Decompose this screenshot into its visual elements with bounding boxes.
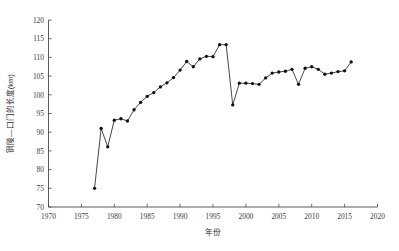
data-point bbox=[152, 91, 155, 94]
data-point bbox=[336, 70, 339, 73]
data-point bbox=[323, 73, 326, 76]
data-point bbox=[238, 82, 241, 85]
data-point bbox=[165, 81, 168, 84]
y-tick-label: 100 bbox=[33, 91, 44, 100]
data-point bbox=[343, 69, 346, 72]
x-tick-label: 2015 bbox=[337, 212, 352, 221]
y-tick-label: 80 bbox=[37, 165, 45, 174]
x-axis-title: 年份 bbox=[205, 227, 221, 237]
data-point bbox=[205, 55, 208, 58]
data-point bbox=[330, 71, 333, 74]
data-point bbox=[172, 76, 175, 79]
x-tick-label: 2005 bbox=[271, 212, 286, 221]
x-tick-label: 1990 bbox=[173, 212, 188, 221]
axis-tickmarks bbox=[49, 20, 378, 207]
data-point bbox=[159, 85, 162, 88]
x-axis-tick-labels: 1970197519801985199019952000200520102015… bbox=[41, 212, 385, 221]
y-axis-title: 铜陵—口门的长度(km) bbox=[5, 74, 15, 153]
x-tick-label: 1995 bbox=[206, 212, 221, 221]
data-point bbox=[218, 43, 221, 46]
data-point bbox=[244, 82, 247, 85]
y-tick-label: 115 bbox=[33, 34, 44, 43]
data-point bbox=[211, 55, 214, 58]
y-tick-label: 110 bbox=[33, 53, 44, 62]
data-point bbox=[139, 101, 142, 104]
x-tick-label: 2020 bbox=[370, 212, 385, 221]
data-point bbox=[113, 119, 116, 122]
y-tick-label: 75 bbox=[37, 184, 45, 193]
axis-frame bbox=[49, 20, 378, 207]
x-tick-label: 2010 bbox=[304, 212, 319, 221]
data-point bbox=[290, 68, 293, 71]
data-point bbox=[277, 70, 280, 73]
data-point bbox=[198, 57, 201, 60]
data-point bbox=[132, 108, 135, 111]
y-tick-label: 70 bbox=[37, 203, 45, 212]
line-chart: 707580859095100105110115120 197019751980… bbox=[0, 0, 399, 251]
data-point bbox=[257, 83, 260, 86]
data-point bbox=[231, 103, 234, 106]
data-point bbox=[284, 70, 287, 73]
data-point bbox=[251, 82, 254, 85]
data-point bbox=[271, 71, 274, 74]
x-tick-label: 1985 bbox=[140, 212, 155, 221]
data-point-markers bbox=[93, 43, 353, 190]
y-tick-label: 90 bbox=[37, 128, 45, 137]
x-tick-label: 1975 bbox=[74, 212, 89, 221]
data-point bbox=[310, 65, 313, 68]
data-point bbox=[106, 145, 109, 148]
data-point bbox=[192, 65, 195, 68]
y-tick-label: 120 bbox=[33, 16, 44, 25]
data-point bbox=[93, 187, 96, 190]
data-point bbox=[317, 68, 320, 71]
x-tick-label: 1980 bbox=[107, 212, 122, 221]
data-point bbox=[350, 60, 353, 63]
x-tick-label: 2000 bbox=[239, 212, 254, 221]
data-point bbox=[185, 60, 188, 63]
data-point bbox=[225, 43, 228, 46]
y-axis-tick-labels: 707580859095100105110115120 bbox=[33, 16, 44, 212]
y-tick-label: 95 bbox=[37, 109, 45, 118]
data-point bbox=[119, 117, 122, 120]
y-tick-label: 105 bbox=[33, 72, 44, 81]
data-point bbox=[126, 119, 129, 122]
data-point bbox=[146, 95, 149, 98]
x-tick-label: 1970 bbox=[41, 212, 56, 221]
data-point bbox=[297, 83, 300, 86]
y-tick-label: 85 bbox=[37, 147, 45, 156]
data-point bbox=[99, 127, 102, 130]
data-point bbox=[303, 67, 306, 70]
data-point bbox=[178, 68, 181, 71]
data-point bbox=[264, 76, 267, 79]
